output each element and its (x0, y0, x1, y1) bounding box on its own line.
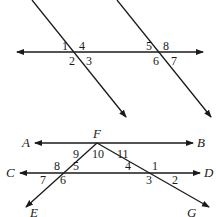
angle-label-10: 10 (92, 147, 104, 161)
point-label-c: C (6, 165, 15, 180)
point-label-a: A (21, 135, 30, 150)
point-label-d: D (203, 165, 214, 180)
angle-label-6: 6 (60, 173, 66, 187)
point-label-b: B (197, 135, 205, 150)
angle-label-6: 6 (153, 54, 159, 68)
angle-label-8: 8 (54, 159, 60, 173)
line-fg (97, 143, 209, 207)
angle-label-4: 4 (79, 39, 85, 53)
angle-label-3: 3 (86, 54, 92, 68)
angle-label-3: 3 (146, 173, 152, 187)
point-label-g: G (187, 205, 197, 217)
parallel-line-2 (117, 0, 211, 117)
angle-label-5: 5 (73, 159, 79, 173)
angle-label-2: 2 (69, 54, 75, 68)
angle-label-8: 8 (163, 39, 169, 53)
geometry-diagram: 14235867 ABCDFEG9101185764132 (0, 0, 216, 217)
angle-label-2: 2 (172, 173, 178, 187)
angle-label-4: 4 (125, 159, 131, 173)
angle-label-1: 1 (152, 159, 158, 173)
angle-label-1: 1 (62, 39, 68, 53)
parallel-lines-diagram: 14235867 (17, 0, 211, 117)
angle-label-5: 5 (146, 39, 152, 53)
triangle-parallel-lines-diagram: ABCDFEG9101185764132 (6, 126, 214, 217)
parallel-line-1 (32, 0, 126, 117)
angle-label-7: 7 (171, 54, 177, 68)
angle-label-7: 7 (40, 173, 46, 187)
point-label-f: F (92, 126, 102, 141)
point-label-e: E (29, 205, 38, 217)
